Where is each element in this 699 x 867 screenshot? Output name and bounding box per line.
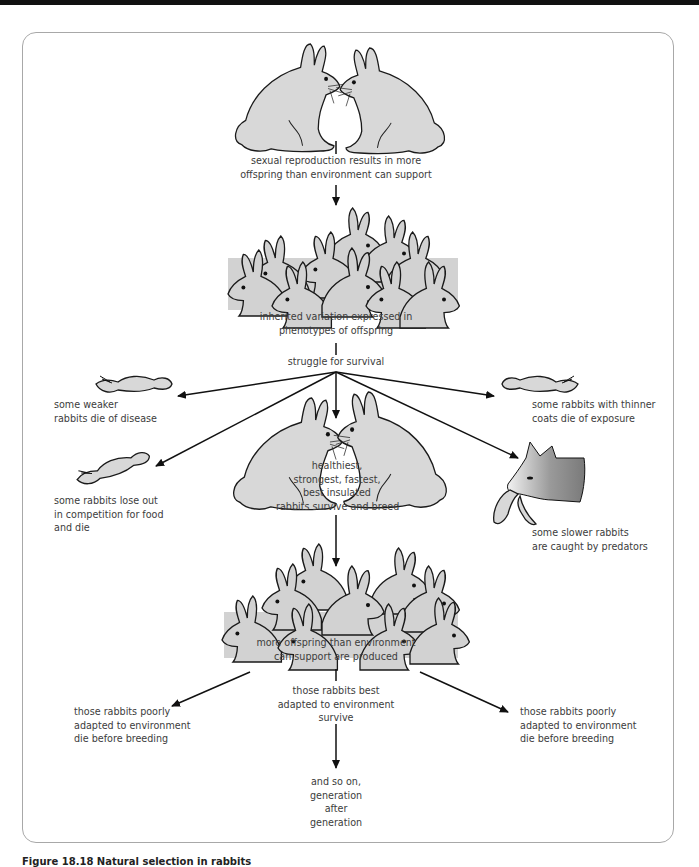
label-and-so-on: and so on, generation after generation	[286, 775, 386, 829]
label-line: generation	[286, 816, 386, 830]
label-line: those rabbits poorly	[74, 705, 191, 719]
dead-rabbit-disease	[96, 376, 172, 392]
label-line: strongest, fastest,	[276, 473, 398, 487]
label-line: rabbits survive and breed	[276, 500, 398, 514]
label-competition: some rabbits lose out in competition for…	[54, 494, 164, 535]
label-inherited-variation: inherited variation expressed in phenoty…	[246, 310, 426, 337]
label-line: survive	[266, 711, 406, 725]
label-line: best insulated	[276, 486, 398, 500]
label-disease: some weaker rabbits die of disease	[54, 398, 157, 425]
parent-rabbit-left	[236, 44, 344, 151]
label-line: can support are produced	[246, 650, 426, 664]
dead-rabbit-exposure	[502, 376, 578, 392]
label-line: and so on,	[286, 775, 386, 789]
label-line: die before breeding	[520, 732, 637, 746]
struggle-arrows	[156, 372, 518, 466]
predator-wolf	[494, 442, 585, 525]
label-more-offspring: more offspring than environment can supp…	[246, 636, 426, 663]
label-line: some weaker	[54, 398, 157, 412]
arrow-poorly-adapted-right	[420, 672, 508, 712]
label-line: those rabbits poorly	[520, 705, 637, 719]
label-predators: some slower rabbits are caught by predat…	[532, 526, 648, 553]
label-line: some slower rabbits	[532, 526, 648, 540]
dead-rabbit-competition	[75, 448, 152, 487]
label-survivors: healthiest, strongest, fastest, best ins…	[276, 459, 398, 513]
label-line: more offspring than environment	[246, 636, 426, 650]
label-line: die before breeding	[74, 732, 191, 746]
label-line: adapted to environment	[266, 698, 406, 712]
label-line: some rabbits lose out	[54, 494, 164, 508]
label-struggle: struggle for survival	[276, 355, 396, 369]
label-line: offspring than environment can support	[236, 168, 436, 182]
label-best-adapted: those rabbits best adapted to environmen…	[266, 684, 406, 725]
label-line: generation	[286, 789, 386, 803]
label-line: rabbits die of disease	[54, 412, 157, 426]
label-line: sexual reproduction results in more	[236, 154, 436, 168]
label-line: some rabbits with thinner	[532, 398, 656, 412]
label-poorly-adapted-right: those rabbits poorly adapted to environm…	[520, 705, 637, 746]
label-poorly-adapted-left: those rabbits poorly adapted to environm…	[74, 705, 191, 746]
label-line: in competition for food	[54, 508, 164, 522]
label-line: adapted to environment	[74, 719, 191, 733]
label-reproduction: sexual reproduction results in more offs…	[236, 154, 436, 181]
label-exposure: some rabbits with thinner coats die of e…	[532, 398, 656, 425]
label-line: are caught by predators	[532, 540, 648, 554]
label-line: and die	[54, 521, 164, 535]
label-line: inherited variation expressed in	[246, 310, 426, 324]
label-line: healthiest,	[276, 459, 398, 473]
figure-caption: Figure 18.18 Natural selection in rabbit…	[22, 856, 251, 867]
arrow-poorly-adapted-left	[172, 672, 250, 706]
label-line: adapted to environment	[520, 719, 637, 733]
label-line: phenotypes of offspring	[246, 324, 426, 338]
label-line: after	[286, 802, 386, 816]
label-line: those rabbits best	[266, 684, 406, 698]
label-line: coats die of exposure	[532, 412, 656, 426]
parent-rabbit-right	[336, 48, 444, 153]
